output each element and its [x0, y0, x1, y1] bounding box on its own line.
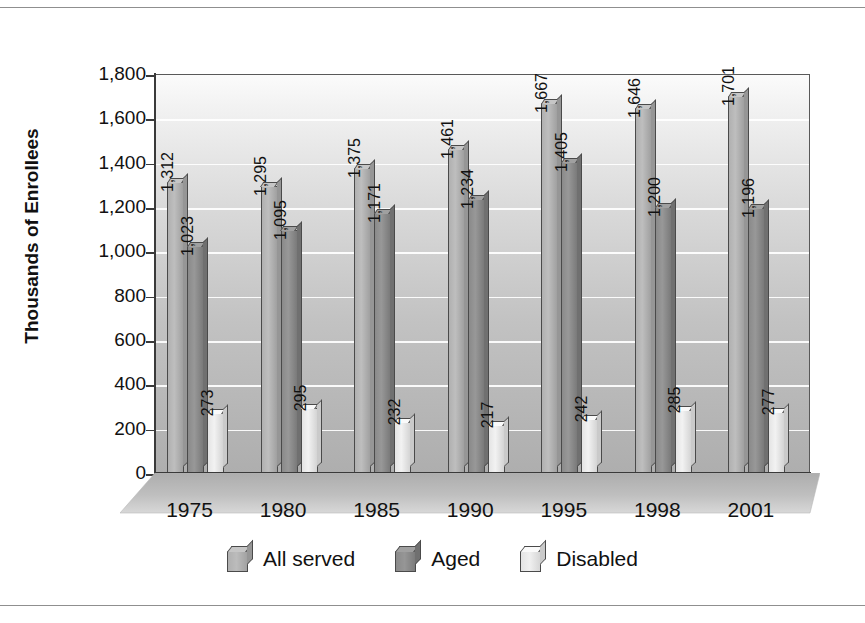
bar[interactable]: 1,095 — [281, 230, 298, 473]
bar-group: 1,6671,405242 — [541, 74, 598, 473]
bar[interactable]: 242 — [581, 419, 598, 473]
bar-value-label: 295 — [293, 384, 309, 411]
legend-label: Disabled — [556, 547, 638, 571]
bar-group: 1,3121,023273 — [167, 74, 224, 473]
bar-value-label: 1,405 — [554, 132, 570, 172]
x-axis-tick-label: 1990 — [447, 498, 494, 522]
bar-value-label: 242 — [574, 396, 590, 423]
legend-item[interactable]: All served — [227, 546, 355, 572]
y-axis-tick-label: 1,000 — [98, 240, 146, 262]
bar-value-label: 273 — [200, 389, 216, 416]
bar[interactable]: 1,200 — [655, 207, 672, 473]
y-axis-tick-label: 400 — [114, 373, 146, 395]
bar-value-label: 1,646 — [627, 78, 643, 118]
bar-side-face — [597, 411, 602, 467]
bar-side-face — [223, 404, 228, 467]
bar-value-label: 217 — [480, 402, 496, 429]
bar-group: 1,4611,234217 — [448, 74, 505, 473]
bar-value-label: 1,023 — [180, 216, 196, 256]
bar-value-label: 277 — [761, 388, 777, 415]
bar-value-label: 1,234 — [460, 169, 476, 209]
y-axis-tick-label: 600 — [114, 329, 146, 351]
bar-group: 1,7011,196277 — [728, 74, 785, 473]
legend-label: All served — [263, 547, 355, 571]
y-axis-tick-label: 1,400 — [98, 152, 146, 174]
x-axis-tick-label: 1985 — [353, 498, 400, 522]
bar-side-face — [410, 413, 415, 467]
bar[interactable]: 295 — [301, 408, 318, 473]
y-axis-line — [154, 73, 156, 474]
bar-group: 1,3751,171232 — [354, 74, 411, 473]
bar[interactable]: 273 — [207, 413, 224, 474]
bar-value-label: 1,171 — [367, 183, 383, 223]
legend-swatch — [227, 551, 248, 572]
bar-group: 1,6461,200285 — [635, 74, 692, 473]
x-axis-tick-label: 1980 — [260, 498, 307, 522]
y-axis-tick-label: 800 — [114, 285, 146, 307]
bar-value-label: 1,196 — [741, 178, 757, 218]
x-axis-tick-label: 1995 — [540, 498, 587, 522]
bar-side-face — [691, 401, 696, 467]
legend-swatch — [395, 551, 416, 572]
bar-value-label: 285 — [667, 386, 683, 413]
bar[interactable]: 1,023 — [187, 246, 204, 473]
bar[interactable]: 1,171 — [374, 213, 391, 473]
bar-value-label: 1,667 — [534, 73, 550, 113]
bar[interactable]: 217 — [488, 425, 505, 473]
legend-swatch-side-face — [540, 540, 546, 565]
legend-item[interactable]: Aged — [395, 546, 480, 572]
y-axis-tick-label: 1,200 — [98, 196, 146, 218]
bar-value-label: 1,701 — [721, 66, 737, 106]
bar-value-label: 1,295 — [253, 156, 269, 196]
bar-group: 1,2951,095295 — [261, 74, 318, 473]
x-axis-tick-label: 2001 — [728, 498, 775, 522]
bar[interactable]: 1,646 — [635, 108, 652, 473]
bar-value-label: 1,461 — [440, 119, 456, 159]
legend-item[interactable]: Disabled — [520, 546, 638, 572]
bar-side-face — [317, 399, 322, 467]
bar-value-label: 232 — [387, 398, 403, 425]
bar[interactable]: 1,701 — [728, 96, 745, 473]
bar[interactable]: 285 — [675, 410, 692, 473]
bar[interactable]: 277 — [768, 412, 785, 473]
x-axis-tick-label: 1975 — [166, 498, 213, 522]
chart-legend: All servedAgedDisabled — [0, 546, 865, 572]
legend-swatch — [520, 551, 541, 572]
legend-swatch-side-face — [415, 540, 421, 565]
legend-swatch-side-face — [247, 540, 253, 565]
bar[interactable]: 1,234 — [468, 199, 485, 473]
plot-area: 1,3121,0232731,2951,0952951,3751,1712321… — [155, 74, 810, 473]
legend-label: Aged — [431, 547, 480, 571]
bar[interactable]: 1,196 — [748, 208, 765, 473]
bar-chart: Thousands of Enrollees 02004006008001,00… — [0, 0, 865, 623]
bar-value-label: 1,312 — [160, 152, 176, 192]
bar-value-label: 1,375 — [347, 138, 363, 178]
y-axis-tick-label: 200 — [114, 418, 146, 440]
y-axis-tick-label: 1,800 — [98, 63, 146, 85]
bar[interactable]: 1,405 — [561, 162, 578, 473]
bar-side-face — [504, 416, 509, 467]
y-axis-title: Thousands of Enrollees — [21, 128, 43, 343]
bar-value-label: 1,095 — [273, 200, 289, 240]
y-axis-tick-labels: 02004006008001,0001,2001,4001,6001,800 — [58, 74, 146, 473]
bar-side-face — [784, 403, 789, 467]
bar-value-label: 1,200 — [647, 177, 663, 217]
x-axis-tick-label: 1998 — [634, 498, 681, 522]
bar[interactable]: 232 — [394, 422, 411, 473]
y-axis-tick-label: 1,600 — [98, 107, 146, 129]
